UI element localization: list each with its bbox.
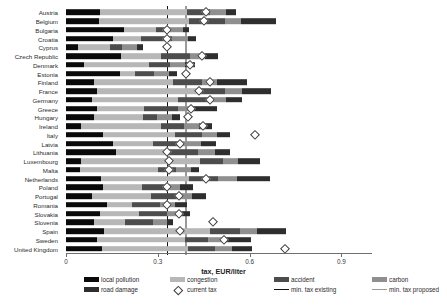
bar-segment-congestion bbox=[94, 220, 126, 226]
legend-label: congestion bbox=[187, 276, 217, 283]
diamond-icon bbox=[170, 287, 185, 293]
bar-segment-roaddamage bbox=[238, 158, 260, 164]
bar-segment-carbon bbox=[202, 132, 217, 138]
bar-segment-local bbox=[66, 106, 97, 112]
category-label: Slovenia bbox=[34, 219, 58, 226]
bar-segment-roaddamage bbox=[183, 27, 189, 33]
bar-segment-accident bbox=[132, 202, 160, 208]
x-axis-title: tax, EUR/liter bbox=[0, 267, 447, 276]
category-label: Italy bbox=[47, 131, 58, 138]
category-label: Luxembourg bbox=[24, 158, 58, 165]
category-label: Estonia bbox=[37, 70, 58, 77]
bar-row bbox=[66, 62, 372, 68]
bar-segment-roaddamage bbox=[192, 193, 206, 199]
legend-item-carbon[interactable]: carbon bbox=[372, 276, 408, 283]
bar-segment-congestion bbox=[100, 10, 187, 16]
line-swatch-icon bbox=[274, 289, 289, 291]
bar-segment-accident bbox=[110, 45, 122, 51]
legend-item-roaddamage[interactable]: road damage bbox=[84, 286, 138, 293]
legend-item-line-proposed[interactable]: min. tax proposed bbox=[372, 286, 439, 293]
bar-segment-carbon bbox=[240, 228, 257, 234]
bar-segment-roaddamage bbox=[226, 10, 237, 16]
bar-segment-local bbox=[66, 27, 124, 33]
legend-label: local pollution bbox=[101, 276, 139, 283]
bar-segment-local bbox=[66, 97, 92, 103]
bar-segment-carbon bbox=[210, 10, 225, 16]
bar-segment-carbon bbox=[153, 220, 168, 226]
bar-segment-local bbox=[66, 176, 101, 182]
bar-segment-accident bbox=[185, 237, 208, 243]
category-label: Germany bbox=[33, 96, 58, 103]
bar-segment-roaddamage bbox=[188, 36, 197, 42]
legend-item-local[interactable]: local pollution bbox=[84, 276, 139, 283]
bar-segment-congestion bbox=[102, 246, 188, 252]
category-axis-labels: AustriaBelgiumBulgariaCroatiaCyprusCzech… bbox=[0, 8, 62, 253]
color-swatch-icon bbox=[170, 277, 185, 282]
bar-row bbox=[66, 27, 372, 33]
bar-row bbox=[66, 115, 372, 121]
bar-segment-local bbox=[66, 123, 81, 129]
bar-segment-carbon bbox=[176, 167, 191, 173]
bar-row bbox=[66, 53, 372, 59]
bar-segment-accident bbox=[144, 106, 178, 112]
bar-segment-local bbox=[66, 45, 78, 51]
bar-segment-congestion bbox=[104, 228, 210, 234]
bar-segment-carbon bbox=[170, 62, 185, 68]
bar-segment-local bbox=[66, 53, 121, 59]
bar-segment-roaddamage bbox=[175, 202, 187, 208]
bar-segment-roaddamage bbox=[193, 106, 217, 112]
color-swatch-icon bbox=[84, 277, 99, 282]
category-label: Sweden bbox=[36, 236, 58, 243]
bar-segment-congestion bbox=[94, 115, 143, 121]
category-label: Belgium bbox=[36, 18, 58, 25]
bar-segment-carbon bbox=[225, 18, 242, 24]
x-tick-label: 0.3 bbox=[153, 258, 162, 265]
category-label: Bulgaria bbox=[35, 26, 58, 33]
category-label: Hungary bbox=[35, 114, 58, 121]
bar-row bbox=[66, 71, 372, 77]
bar-segment-congestion bbox=[116, 150, 165, 156]
bar-segment-congestion bbox=[97, 88, 198, 94]
legend-item-current-tax[interactable]: current tax bbox=[170, 286, 217, 293]
legend-label: carbon bbox=[389, 276, 408, 283]
category-label: Denmark bbox=[33, 61, 58, 68]
bar-segment-carbon bbox=[215, 246, 232, 252]
category-label: Austria bbox=[39, 9, 58, 16]
legend-item-congestion[interactable]: congestion bbox=[170, 276, 217, 283]
bar-row bbox=[66, 10, 372, 16]
bar-segment-congestion bbox=[107, 202, 132, 208]
bar-segment-accident bbox=[188, 246, 216, 252]
min-tax-proposed-line bbox=[185, 6, 186, 255]
category-label: Latvia bbox=[41, 140, 58, 147]
bar-segment-roaddamage bbox=[232, 246, 252, 252]
bar-segment-congestion bbox=[81, 123, 161, 129]
bar-segment-local bbox=[66, 246, 102, 252]
x-tick bbox=[66, 253, 67, 257]
bar-segment-carbon bbox=[157, 115, 172, 121]
bar-row bbox=[66, 150, 372, 156]
bar-segment-local bbox=[66, 193, 92, 199]
bar-segment-accident bbox=[200, 158, 223, 164]
bar-row bbox=[66, 211, 372, 217]
category-label: France bbox=[39, 88, 58, 95]
legend-item-line-existing[interactable]: min. tax existing bbox=[274, 286, 336, 293]
bar-row bbox=[66, 80, 372, 86]
x-axis-line bbox=[66, 253, 372, 254]
bar-segment-local bbox=[66, 62, 84, 68]
bar-segment-accident bbox=[135, 71, 153, 77]
legend-label: road damage bbox=[101, 286, 138, 293]
category-label: Lithuania bbox=[33, 149, 58, 156]
bar-segment-accident bbox=[173, 80, 202, 86]
x-tick-label: 0.9 bbox=[337, 258, 346, 265]
category-label: Romania bbox=[33, 201, 58, 208]
bar-segment-local bbox=[66, 185, 103, 191]
bar-segment-roaddamage bbox=[215, 150, 230, 156]
bar-row bbox=[66, 228, 372, 234]
category-label: Spain bbox=[42, 228, 58, 235]
legend-item-accident[interactable]: accident bbox=[274, 276, 314, 283]
bar-segment-accident bbox=[161, 123, 184, 129]
bar-segment-congestion bbox=[113, 36, 141, 42]
bar-row bbox=[66, 106, 372, 112]
bar-segment-carbon bbox=[154, 71, 169, 77]
bar-segment-carbon bbox=[218, 176, 236, 182]
